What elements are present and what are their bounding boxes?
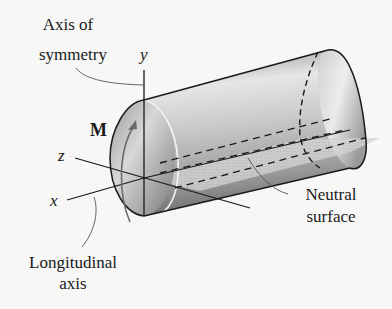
moment-label: M <box>90 120 107 140</box>
diagram-canvas: Axis of symmetry y M z x Neutral surface… <box>0 0 392 309</box>
longitudinal-axis-label-line1: Longitudinal <box>29 253 117 272</box>
axis-of-symmetry-label-line2: symmetry <box>39 45 107 64</box>
beam-diagram: Axis of symmetry y M z x Neutral surface… <box>0 0 392 309</box>
neutral-surface-label-line2: surface <box>306 207 355 226</box>
neutral-surface-label-line1: Neutral <box>306 185 357 204</box>
z-axis-label: z <box>57 146 65 165</box>
y-axis-label: y <box>138 45 148 64</box>
x-axis-label: x <box>49 191 58 210</box>
axis-of-symmetry-leader <box>76 68 143 85</box>
axis-of-symmetry-label-line1: Axis of <box>43 15 94 34</box>
longitudinal-axis-label-line2: axis <box>59 274 86 293</box>
longitudinal-axis-leader <box>82 197 96 247</box>
